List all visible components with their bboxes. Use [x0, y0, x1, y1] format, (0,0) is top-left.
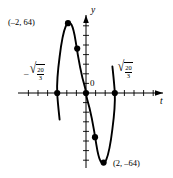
minus-sign: –: [24, 68, 29, 78]
fraction-numerator: 20: [125, 65, 132, 72]
fraction: 20 3: [125, 65, 132, 81]
fraction-denominator: 3: [39, 75, 42, 82]
fraction-denominator: 3: [127, 73, 130, 80]
t-axis-arrowhead: [155, 90, 163, 96]
radical-sign-icon: √: [30, 63, 37, 74]
radical-expression: √ 20 3: [117, 61, 133, 80]
point-inflection-right: [92, 134, 98, 140]
label-origin: 0: [90, 79, 95, 88]
point-inflection-left: [74, 46, 80, 52]
label-local-maximum: (–2, 64): [8, 18, 35, 27]
fraction: 20 3: [37, 67, 44, 83]
math-graph-figure: (–2, 64) (2, –64) 0 y t – √ 20 3 √ 20: [0, 0, 173, 178]
point-origin: [83, 90, 89, 96]
radicand: 20 3: [36, 64, 45, 82]
radicand: 20 3: [124, 62, 133, 80]
point-root-negative: [54, 90, 60, 96]
point-local-maximum: [65, 20, 71, 26]
label-local-minimum: (2, –64): [113, 159, 140, 168]
point-local-minimum: [101, 160, 107, 166]
label-y-axis: y: [91, 6, 95, 16]
point-root-positive: [112, 90, 118, 96]
t-axis-group: [18, 90, 163, 96]
label-root-positive: √ 20 3: [117, 61, 133, 80]
y-axis-arrowhead: [83, 15, 89, 23]
label-t-axis: t: [160, 97, 163, 107]
fraction-numerator: 20: [37, 67, 44, 74]
label-root-negative: – √ 20 3: [24, 63, 45, 82]
radical-expression: √ 20 3: [29, 63, 45, 82]
radical-sign-icon: √: [118, 61, 125, 72]
